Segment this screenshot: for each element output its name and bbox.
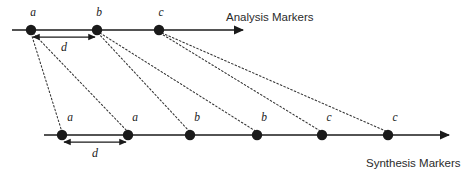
synthesis-marker-b2 <box>252 130 262 140</box>
analysis-label-b: b <box>96 6 102 18</box>
synthesis-spacing-label: d <box>92 146 99 160</box>
synthesis-labels: a a b b c c d Synthesis Markers <box>67 111 461 169</box>
connector-a-to-a2 <box>33 33 128 132</box>
synthesis-label-c2: c <box>392 111 397 123</box>
analysis-marker-c <box>154 25 164 35</box>
connector-b-to-b2 <box>100 33 257 132</box>
connector-b-to-b1 <box>98 33 190 132</box>
synthesis-marker-b1 <box>185 130 195 140</box>
synthesis-marker-a1 <box>57 130 67 140</box>
synthesis-label-c1: c <box>326 111 331 123</box>
connector-group <box>31 33 388 132</box>
analysis-marker-b <box>92 25 102 35</box>
analysis-caption: Analysis Markers <box>226 11 314 23</box>
analysis-marker-a <box>26 25 36 35</box>
synthesis-label-a1: a <box>67 111 73 123</box>
synthesis-timeline <box>44 130 449 142</box>
synthesis-marker-c1 <box>317 130 327 140</box>
synthesis-label-b2: b <box>261 111 267 123</box>
connector-c-to-c1 <box>160 33 322 132</box>
analysis-timeline <box>12 25 243 37</box>
analysis-label-c: c <box>158 6 163 18</box>
diagram-canvas: a b c d Analysis Markers a a b b c c d S… <box>0 0 465 180</box>
synthesis-caption: Synthesis Markers <box>366 157 461 169</box>
synthesis-marker-a2 <box>123 130 133 140</box>
synthesis-label-a2: a <box>132 111 138 123</box>
synthesis-marker-c2 <box>383 130 393 140</box>
time-scaling-diagram: a b c d Analysis Markers a a b b c c d S… <box>0 0 465 180</box>
analysis-spacing-label: d <box>61 40 68 54</box>
analysis-label-a: a <box>30 6 36 18</box>
synthesis-label-b1: b <box>194 111 200 123</box>
connector-a-to-a1 <box>31 33 62 132</box>
